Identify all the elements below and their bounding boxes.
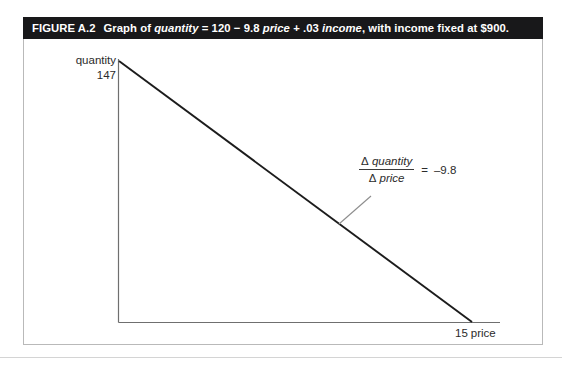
y-axis-label: quantity — [23, 54, 116, 66]
x-axis-intercept-value: 15 — [455, 327, 468, 339]
figure-number: FIGURE A.2 — [32, 22, 95, 34]
x-axis-label-group: 15price — [455, 327, 496, 339]
caption-lead: Graph of — [103, 22, 150, 34]
y-axis-intercept-value: 147 — [23, 69, 116, 81]
caption-var-price: price — [263, 22, 290, 34]
caption-coef-price: 9.8 — [244, 22, 260, 34]
x-axis-label: price — [471, 327, 496, 339]
delta-icon: Δ — [369, 172, 377, 184]
figure-caption-bar: FIGURE A.2Graph of quantity = 120 − 9.8 … — [23, 17, 543, 39]
caption-equals: = — [202, 22, 209, 34]
caption-var-income: income — [322, 22, 362, 34]
caption-var-quantity: quantity — [154, 22, 198, 34]
chart-plot-area: quantity 147 15price Δ quantity Δ price … — [23, 39, 543, 345]
chart-svg — [23, 39, 543, 345]
slope-denominator-var: price — [380, 172, 405, 184]
slope-equals-sign: = — [421, 164, 428, 176]
page-divider-rule — [0, 357, 562, 358]
caption-plus: + — [293, 22, 300, 34]
caption-intercept: 120 — [212, 22, 231, 34]
figure-caption-text: FIGURE A.2Graph of quantity = 120 − 9.8 … — [23, 17, 509, 39]
caption-tail: , with income fixed at $900. — [362, 22, 509, 34]
demand-line — [119, 61, 472, 322]
caption-coef-income: .03 — [303, 22, 319, 34]
caption-minus: − — [234, 22, 241, 34]
slope-value: –9.8 — [434, 164, 456, 176]
slope-denominator: Δ price — [367, 170, 407, 185]
slope-fraction: Δ quantity Δ price — [359, 154, 414, 185]
annotation-leader-line — [339, 196, 371, 224]
delta-icon: Δ — [361, 155, 369, 167]
slope-numerator: Δ quantity — [359, 154, 414, 170]
slope-annotation: Δ quantity Δ price = –9.8 — [359, 154, 456, 185]
slope-numerator-var: quantity — [372, 155, 412, 167]
